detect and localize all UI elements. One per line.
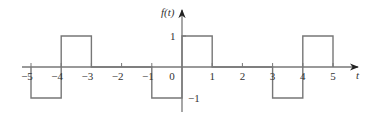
y-tick-label-1: 1 [170, 30, 176, 42]
x-tick-label: 4 [300, 70, 306, 82]
x-tick-label: −5 [21, 70, 33, 82]
x-tick-labels: −5−4−3−2−1012345 [21, 70, 336, 82]
x-axis-label: t [356, 69, 360, 81]
x-tick-label: 1 [209, 70, 215, 82]
x-tick-label: 0 [169, 70, 175, 82]
x-tick-label: 5 [330, 70, 336, 82]
x-tick-label: −4 [51, 70, 63, 82]
x-tick-label: 3 [270, 70, 276, 82]
square-wave-plot: −5−4−3−2−1012345 1 −1 f(t) t [0, 0, 375, 118]
x-tick-label: −1 [142, 70, 154, 82]
x-tick-label: −3 [82, 70, 94, 82]
x-tick-label: −2 [112, 70, 124, 82]
y-tick-label-neg1: −1 [188, 92, 200, 104]
x-tick-label: 2 [240, 70, 246, 82]
y-axis-label: f(t) [161, 6, 175, 19]
